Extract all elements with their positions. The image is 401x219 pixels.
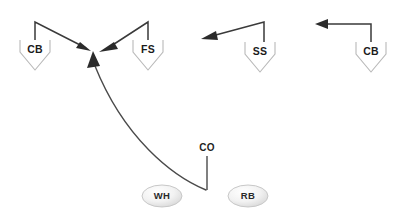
- defender-label-cb-left: CB: [27, 43, 43, 55]
- offense-label-wh: WH: [154, 190, 170, 201]
- offense-label-rb: RB: [241, 190, 255, 201]
- route-co-stem[interactable]: CO: [199, 142, 215, 190]
- route-label-co: CO: [199, 142, 215, 153]
- offense-wh[interactable]: WH: [142, 185, 182, 207]
- defender-ss[interactable]: SS: [245, 42, 275, 72]
- wh-co-arrowhead: [87, 51, 100, 68]
- defender-cb-right[interactable]: CB: [356, 42, 386, 72]
- offense-rb[interactable]: RB: [228, 185, 268, 207]
- ss-arrowhead: [201, 31, 218, 40]
- cb-right-route-line: [325, 24, 371, 42]
- defender-cb-left[interactable]: CB: [20, 40, 50, 70]
- motion-path-ss[interactable]: [201, 22, 264, 42]
- motion-path-cb-left[interactable]: [35, 22, 91, 51]
- ss-route-line: [212, 22, 264, 42]
- defender-label-fs: FS: [141, 43, 155, 55]
- defender-fs[interactable]: FS: [133, 40, 163, 70]
- motion-path-wh-co-route[interactable]: [87, 51, 206, 190]
- defender-label-cb-right: CB: [363, 45, 379, 57]
- motion-path-cb-right[interactable]: [315, 19, 371, 42]
- play-diagram: CB FS SS CB: [0, 0, 401, 219]
- cb-right-arrowhead: [315, 19, 328, 29]
- wh-co-curve: [95, 66, 206, 190]
- defender-label-ss: SS: [253, 45, 267, 57]
